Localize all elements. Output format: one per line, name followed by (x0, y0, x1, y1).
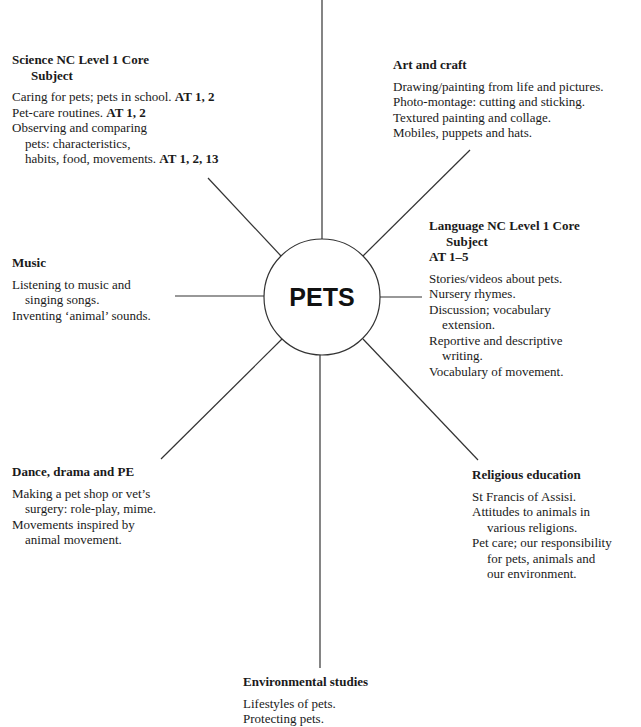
list-item: Lifestyles of pets. (243, 696, 368, 712)
list-item: Discussion; vocabulary (429, 302, 580, 318)
list-item: surgery: role-play, mime. (12, 501, 156, 517)
branch-dance-drama-pe: Dance, drama and PE Making a pet shop or… (12, 464, 156, 548)
branch-environmental-studies: Environmental studies Lifestyles of pets… (243, 674, 368, 727)
list-item: Photo-montage: cutting and sticking. (393, 94, 603, 110)
list-item: Listening to music and (12, 277, 151, 293)
branch-title: Dance, drama and PE (12, 464, 156, 480)
branch-religious-education: Religious education St Francis of Assisi… (472, 467, 612, 582)
list-item: Observing and comparing (12, 120, 218, 136)
list-item: various religions. (472, 520, 612, 536)
branch-title: Art and craft (393, 57, 603, 73)
list-item: Mobiles, puppets and hats. (393, 125, 603, 141)
branch-title: Environmental studies (243, 674, 368, 690)
list-item: extension. (429, 317, 580, 333)
list-item: Caring for pets; pets in school. AT 1, 2 (12, 89, 218, 105)
branch-language: Language NC Level 1 Core Subject AT 1–5 … (429, 218, 580, 379)
list-item: Attitudes to animals in (472, 504, 612, 520)
list-item: Stories/videos about pets. (429, 271, 580, 287)
list-item: Protecting pets. (243, 711, 368, 727)
list-item: Pet-care routines. AT 1, 2 (12, 105, 218, 121)
list-item: Pet care; our responsibility (472, 535, 612, 551)
branch-title: Science NC Level 1 Core Subject (12, 52, 218, 83)
branch-art-and-craft: Art and craft Drawing/painting from life… (393, 57, 603, 141)
branch-science: Science NC Level 1 Core Subject Caring f… (12, 52, 218, 167)
list-item: Making a pet shop or vet’s (12, 486, 156, 502)
list-item: writing. (429, 348, 580, 364)
list-item: Inventing ‘animal’ sounds. (12, 308, 151, 324)
list-item: our environment. (472, 566, 612, 582)
list-item: Vocabulary of movement. (429, 364, 580, 380)
center-hub-label: PETS (264, 239, 380, 355)
list-item: Nursery rhymes. (429, 286, 580, 302)
list-item: Textured painting and collage. (393, 110, 603, 126)
list-item: Drawing/painting from life and pictures. (393, 79, 603, 95)
list-item: animal movement. (12, 532, 156, 548)
branch-music: Music Listening to music and singing son… (12, 255, 151, 323)
branch-title: Religious education (472, 467, 612, 483)
branch-title: Music (12, 255, 151, 271)
list-item: singing songs. (12, 292, 151, 308)
spoke-lower-left (161, 339, 282, 459)
list-item: pets: characteristics, (12, 136, 218, 152)
list-item: habits, food, movements. AT 1, 2, 13 (12, 151, 218, 167)
branch-title: Language NC Level 1 Core Subject AT 1–5 (429, 218, 580, 265)
list-item: Movements inspired by (12, 517, 156, 533)
list-item: St Francis of Assisi. (472, 489, 612, 505)
list-item: Reportive and descriptive (429, 333, 580, 349)
list-item: for pets, animals and (472, 551, 612, 567)
